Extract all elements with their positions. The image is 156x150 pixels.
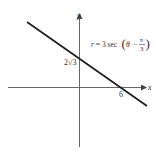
graph-line [27, 22, 147, 106]
equation-lhs: r = 3 sec [91, 40, 118, 49]
equation-denominator: 3 [140, 45, 144, 53]
equation-theta: θ [126, 40, 130, 49]
y-axis-label: y [76, 11, 81, 20]
polar-line-graph: y x 2√3 6 r = 3 sec ( θ − π 3 ) [0, 0, 156, 150]
equation-minus: − [133, 40, 137, 49]
equation-pi: π [140, 36, 144, 44]
paren-right: ) [146, 36, 150, 51]
y-intercept-label: 2√3 [64, 58, 76, 67]
x-axis-label: x [147, 83, 152, 92]
equation-label: r = 3 sec ( θ − π 3 ) [91, 36, 150, 53]
x-intercept-label: 6 [119, 90, 123, 99]
